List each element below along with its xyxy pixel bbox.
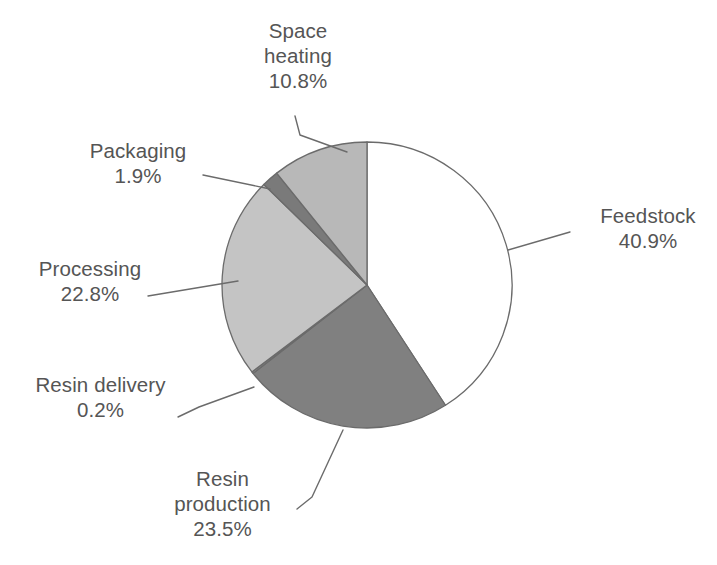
slice-label-packaging-percent: 1.9% [58, 163, 218, 188]
slice-label-space-heating: Space heating 10.8% [233, 18, 363, 93]
slice-label-resin-delivery: Resin delivery 0.2% [8, 372, 193, 422]
slice-label-resin-delivery-name: Resin delivery [8, 372, 193, 397]
slice-label-processing-percent: 22.8% [10, 281, 170, 306]
pie-slice-group [222, 142, 512, 428]
slice-label-resin-production-percent: 23.5% [130, 516, 315, 541]
slice-label-space-heating-percent: 10.8% [233, 68, 363, 93]
slice-label-processing: Processing 22.8% [10, 256, 170, 306]
slice-label-resin-production-name-line2: production [130, 491, 315, 516]
slice-label-space-heating-name-line2: heating [233, 43, 363, 68]
pie-chart-figure: Space heating 10.8% Packaging 1.9% Proce… [0, 0, 717, 565]
slice-label-feedstock-name: Feedstock [578, 203, 717, 228]
slice-label-resin-production: Resin production 23.5% [130, 466, 315, 541]
slice-label-packaging: Packaging 1.9% [58, 138, 218, 188]
slice-label-feedstock-percent: 40.9% [578, 228, 717, 253]
slice-label-space-heating-name-line1: Space [233, 18, 363, 43]
slice-label-resin-delivery-percent: 0.2% [8, 397, 193, 422]
slice-label-processing-name: Processing [10, 256, 170, 281]
slice-label-resin-production-name-line1: Resin [130, 466, 315, 491]
leader-line-feedstock [508, 232, 570, 250]
slice-label-packaging-name: Packaging [58, 138, 218, 163]
slice-label-feedstock: Feedstock 40.9% [578, 203, 717, 253]
